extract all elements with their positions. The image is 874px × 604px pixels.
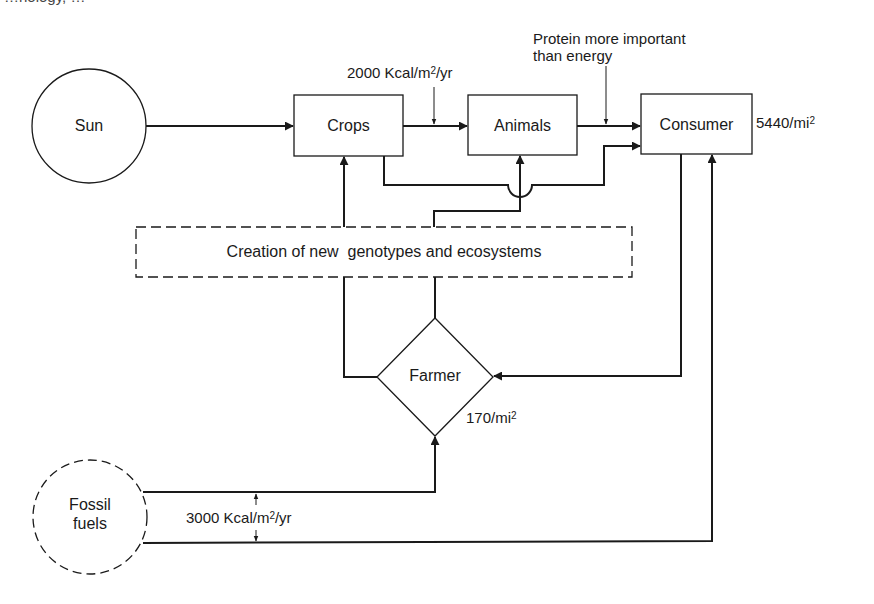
edge-fossil-consumer <box>143 155 712 543</box>
edge-crops-consumer <box>384 146 640 197</box>
edge-creation-animals <box>434 156 520 227</box>
annotation-3000kcal-suffix: /yr <box>275 509 292 526</box>
farmer-density-sup: 2 <box>511 410 517 421</box>
fossil-label-line2: fuels <box>50 515 130 533</box>
annotation-farmer-density: 170/mi2 <box>466 409 517 426</box>
consumer-density-prefix: 5440/mi <box>756 114 809 131</box>
creation-label: Creation of new genotypes and ecosystems <box>136 243 632 261</box>
annotation-2000kcal-suffix: /yr <box>436 64 453 81</box>
annotation-protein-line1: Protein more important <box>533 30 686 47</box>
farmer-density-prefix: 170/mi <box>466 409 511 426</box>
annotation-protein-line2: than energy <box>533 47 612 64</box>
farmer-label: Farmer <box>395 367 475 385</box>
annotation-3000kcal: 3000 Kcal/m2/yr <box>186 509 292 526</box>
annotation-2000kcal-prefix: 2000 Kcal/m <box>347 64 430 81</box>
annotation-consumer-density: 5440/mi2 <box>756 114 815 131</box>
edge-fossil-farmer <box>143 437 435 492</box>
edge-farmer-creation-left <box>344 277 377 377</box>
sun-label: Sun <box>49 117 129 135</box>
diagram-canvas <box>0 0 874 604</box>
annotation-2000kcal-sup: 2 <box>430 65 436 76</box>
fossil-label-line1: Fossil <box>50 496 130 514</box>
animals-label: Animals <box>468 117 577 135</box>
edge-consumer-farmer <box>494 154 681 376</box>
consumer-density-sup: 2 <box>809 115 815 126</box>
annotation-3000kcal-sup: 2 <box>269 510 275 521</box>
annotation-3000kcal-prefix: 3000 Kcal/m <box>186 509 269 526</box>
consumer-label: Consumer <box>641 116 752 134</box>
crops-label: Crops <box>294 117 403 135</box>
annotation-2000kcal: 2000 Kcal/m2/yr <box>347 64 453 81</box>
